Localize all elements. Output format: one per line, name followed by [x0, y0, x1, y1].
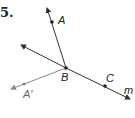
point-b — [64, 66, 68, 70]
label-c: C — [106, 72, 114, 84]
label-a: A — [58, 14, 65, 26]
line-m-left — [21, 45, 66, 68]
point-c — [103, 84, 107, 88]
label-a-prime: A' — [23, 88, 32, 100]
line-m-right — [66, 68, 130, 99]
diagram-lines — [0, 0, 135, 118]
label-b: B — [61, 71, 68, 83]
point-a-prime — [22, 82, 25, 85]
label-m: m — [124, 84, 133, 96]
ray-ba-prime — [11, 68, 66, 89]
point-a — [50, 20, 54, 24]
geometry-figure: 5. A B C m A' — [0, 0, 135, 118]
